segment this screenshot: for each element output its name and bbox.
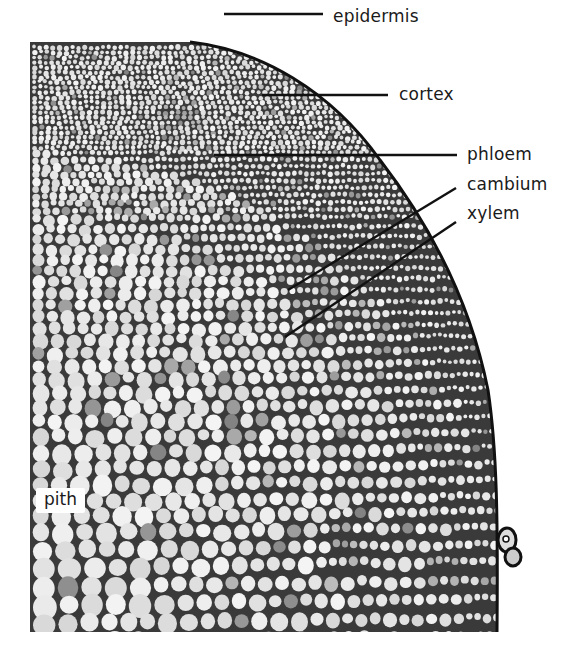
xylem-label: xylem <box>467 205 520 222</box>
trichome <box>498 528 521 566</box>
epidermis-label: epidermis <box>333 8 419 25</box>
phloem-label: phloem <box>467 146 532 163</box>
tissue-section <box>30 42 512 656</box>
stem-cross-section-figure: epidermiscortexphloemcambiumxylem pith <box>0 0 579 659</box>
micrograph-image <box>0 0 579 659</box>
cortex-label: cortex <box>399 86 454 103</box>
cambium-label: cambium <box>467 176 548 193</box>
pith-label: pith <box>36 488 85 513</box>
